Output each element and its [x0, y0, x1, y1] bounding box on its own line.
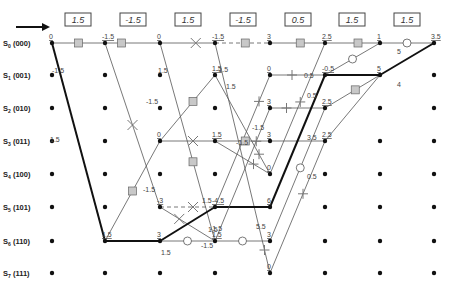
path-metric: 3 [267, 33, 271, 40]
state-node [158, 172, 162, 176]
branch-metric: -1.5 [146, 98, 158, 105]
state-node [268, 73, 272, 77]
state-label: S7 (111) [3, 269, 30, 279]
path-metric: 0 [157, 131, 161, 138]
received-value: 1.5 [72, 15, 86, 25]
state-node [268, 205, 272, 209]
plus-marker [295, 97, 305, 107]
branch-metric: 1.5 [161, 249, 171, 256]
plus-marker [249, 159, 259, 169]
circle-marker [184, 237, 192, 245]
path-metric: -1.5 [102, 33, 114, 40]
square-marker [189, 158, 197, 166]
received-value-box: -1.5 [230, 13, 256, 26]
state-node [103, 139, 107, 143]
state-label: S1 (001) [3, 71, 31, 81]
branch-metric: -1.5 [210, 225, 222, 232]
path-metric: 3.5 [431, 33, 441, 40]
branch-metric: 4 [397, 81, 401, 88]
path-metric: -4.5 [212, 197, 224, 204]
state-node [432, 106, 436, 110]
trellis-branch [270, 43, 325, 174]
state-node [432, 41, 436, 45]
state-node [432, 271, 436, 275]
state-node [213, 73, 217, 77]
state-node [213, 41, 217, 45]
path-metric: -1.5 [212, 33, 224, 40]
trellis-branch [270, 108, 325, 241]
state-node [103, 205, 107, 209]
branch-metric: 5.5 [256, 223, 266, 230]
state-node [50, 239, 54, 243]
plus-marker [298, 189, 308, 199]
trellis-branch [270, 141, 325, 273]
state-node [378, 239, 382, 243]
received-value: 1.5 [346, 15, 360, 25]
state-node [158, 205, 162, 209]
trellis-branch [160, 75, 215, 141]
received-value: 1.5 [401, 15, 415, 25]
path-metric: 3 [157, 231, 161, 238]
state-node [103, 106, 107, 110]
branch-metric: 1.5 [202, 197, 212, 204]
state-node [378, 271, 382, 275]
plus-marker [251, 136, 261, 146]
direction-arrow-icon [16, 23, 50, 31]
state-node [378, 73, 382, 77]
branch-metric: -1.5 [216, 66, 228, 73]
plus-marker [260, 245, 270, 255]
state-node [323, 41, 327, 45]
state-node [432, 139, 436, 143]
branch-metric: 0.5 [307, 173, 317, 180]
path-metric: -3 [157, 197, 163, 204]
branch-metric: 1.5 [226, 83, 236, 90]
circle-marker [403, 39, 411, 47]
state-node [50, 106, 54, 110]
square-marker [118, 39, 126, 47]
branch-metric: -1.5 [252, 124, 264, 131]
state-node [432, 172, 436, 176]
plus-marker [282, 103, 292, 113]
state-node [323, 205, 327, 209]
branch-metric: -1.5 [236, 139, 248, 146]
state-node [378, 41, 382, 45]
state-node [50, 205, 54, 209]
square-marker [241, 39, 249, 47]
square-marker [129, 187, 137, 195]
state-node [213, 271, 217, 275]
received-value-box: 1.5 [339, 13, 365, 26]
state-node [50, 41, 54, 45]
state-label: S3 (011) [3, 137, 30, 147]
trellis-branch [380, 43, 434, 75]
path-metric: 3 [267, 98, 271, 105]
branch-metric: -1.5 [52, 67, 64, 74]
state-node [158, 139, 162, 143]
path-metric: 3 [267, 131, 271, 138]
trellis-canvas: 1.5-1.51.5-1.50.51.51.5 S0 (000)S1 (001)… [0, 0, 458, 296]
path-metric: 5 [377, 65, 381, 72]
state-label: S2 (010) [3, 104, 31, 114]
state-node [268, 172, 272, 176]
square-marker [189, 97, 197, 105]
state-node [50, 271, 54, 275]
plus-marker [287, 70, 297, 80]
branch-metric: -1.5 [201, 242, 213, 249]
state-node [323, 271, 327, 275]
path-metric: 0 [157, 33, 161, 40]
state-node [103, 271, 107, 275]
state-node [323, 172, 327, 176]
state-node [268, 239, 272, 243]
state-node [103, 41, 107, 45]
branch-metric: 0.5 [304, 72, 314, 79]
state-node [323, 106, 327, 110]
path-metric: 0 [267, 65, 271, 72]
received-value-box: -1.5 [120, 13, 146, 26]
path-metric: 1.5 [212, 131, 222, 138]
state-node [158, 41, 162, 45]
state-label: S0 (000) [3, 39, 31, 49]
state-node [378, 106, 382, 110]
state-label: S4 (100) [3, 170, 31, 180]
path-metric: 1 [377, 33, 381, 40]
branch-metric: 5 [397, 48, 401, 55]
state-node [213, 205, 217, 209]
